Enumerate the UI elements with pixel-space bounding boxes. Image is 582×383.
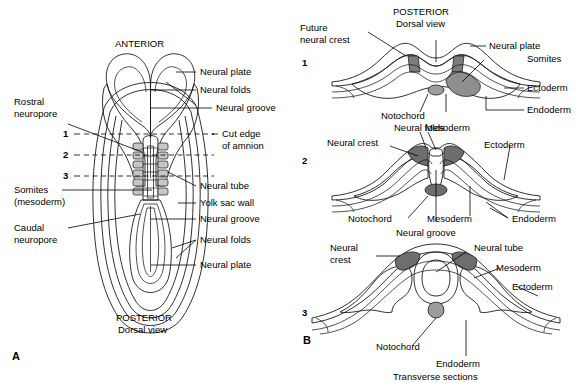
- label-neural-groove-top: Neural groove: [216, 102, 276, 113]
- panel-a-posterior-label: POSTERIOR: [116, 312, 172, 323]
- panel-b-posterior-label: POSTERIOR: [393, 6, 449, 17]
- label-future-neural-crest-line2: neural crest: [300, 34, 350, 45]
- label-b1-neural-plate: Neural plate: [489, 40, 540, 51]
- label-b3-mesoderm: Mesoderm: [496, 262, 541, 273]
- panel-a-section-number-2: 2: [63, 149, 68, 160]
- notochord-1: [428, 85, 444, 95]
- label-b2-endoderm: Endoderm: [512, 213, 556, 224]
- label-b1-notochord: Notochord: [381, 110, 425, 121]
- panel-a-anterior-label: ANTERIOR: [115, 38, 164, 49]
- label-future-neural-crest-line1: Future: [300, 22, 327, 33]
- label-b2-neural-groove: Neural groove: [396, 227, 456, 238]
- panel-b-section-number-2: 2: [302, 155, 307, 166]
- label-b3-notochord: Notochord: [376, 341, 420, 352]
- label-yolk-sac-wall: Yolk sac wall: [200, 197, 254, 208]
- notochord-3: [428, 302, 444, 318]
- label-cut-edge-line2: of amnion: [222, 140, 264, 151]
- label-b1-ectoderm: Ectoderm: [527, 82, 568, 93]
- label-cut-edge-line1: Cut edge: [222, 128, 261, 139]
- label-rostral-neuropore-line1: Rostral: [14, 96, 44, 107]
- label-neural-tube: Neural tube: [200, 180, 249, 191]
- panel-a-dorsal-view-label: Dorsal view: [118, 324, 167, 335]
- label-caudal-neuropore-line1: Caudal: [14, 222, 44, 233]
- panel-a-section-number-1: 1: [63, 128, 68, 139]
- label-somites-line1: Somites: [14, 184, 48, 195]
- label-caudal-neuropore-line2: neuropore: [14, 234, 57, 245]
- label-b3-neural-tube: Neural tube: [474, 242, 523, 253]
- label-somites-line2: (mesoderm): [14, 196, 65, 207]
- label-b2-neural-folds: Neural folds: [394, 122, 445, 133]
- label-b3-neural-crest-line2: crest: [330, 254, 351, 265]
- panel-a-section-number-3: 3: [63, 170, 68, 181]
- label-b2-ectoderm: Ectoderm: [484, 139, 525, 150]
- neural-crest-left-3: [395, 252, 420, 270]
- label-b3-neural-crest-line1: Neural: [330, 242, 358, 253]
- panel-b-key: B: [303, 334, 311, 346]
- panel-b-section-number-1: 1: [302, 57, 307, 68]
- panel-b-dorsal-view-label: Dorsal view: [396, 18, 445, 29]
- label-b2-neural-crest: Neural crest: [327, 137, 378, 148]
- neural-crest-right-3: [452, 252, 477, 270]
- figure-neurulation: ANTERIOR Rostral neuropore 1 2 3 Somites…: [0, 0, 582, 383]
- label-neural-groove-bottom: Neural groove: [200, 213, 260, 224]
- label-b1-somites: Somites: [527, 53, 561, 64]
- neural-crest-left-1: [408, 56, 420, 72]
- label-b3-endoderm: Endoderm: [436, 358, 480, 369]
- leaders-panel-a: [62, 72, 218, 265]
- label-neural-folds-bottom: Neural folds: [200, 234, 251, 245]
- panel-a-drawing: [0, 0, 582, 383]
- label-b3-ectoderm: Ectoderm: [512, 281, 553, 292]
- panel-b-section-number-3: 3: [302, 307, 307, 318]
- panel-a-key: A: [12, 350, 20, 362]
- label-b2-mesoderm: Mesoderm: [427, 213, 472, 224]
- caudal-neural-plate: [130, 200, 172, 293]
- label-rostral-neuropore-line2: neuropore: [14, 108, 57, 119]
- figure-caption-transverse-sections: Transverse sections: [393, 371, 478, 382]
- somite-blocks-right: [158, 143, 168, 195]
- label-neural-plate-top: Neural plate: [200, 66, 251, 77]
- neural-crest-right-1: [452, 56, 464, 72]
- label-neural-plate-bottom: Neural plate: [200, 259, 251, 270]
- label-b1-endoderm: Endoderm: [527, 104, 571, 115]
- label-neural-folds-top: Neural folds: [200, 84, 251, 95]
- label-b2-notochord: Notochord: [348, 213, 392, 224]
